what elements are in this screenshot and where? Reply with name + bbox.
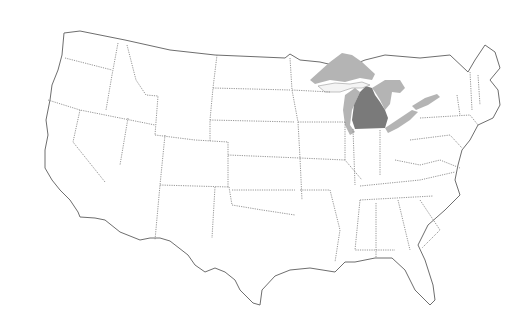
lake-erie xyxy=(385,110,418,133)
state-borders xyxy=(48,43,480,262)
lake-ontario xyxy=(412,94,440,110)
us-outline xyxy=(45,31,500,305)
us-map xyxy=(0,0,526,332)
lake-superior xyxy=(310,53,375,84)
